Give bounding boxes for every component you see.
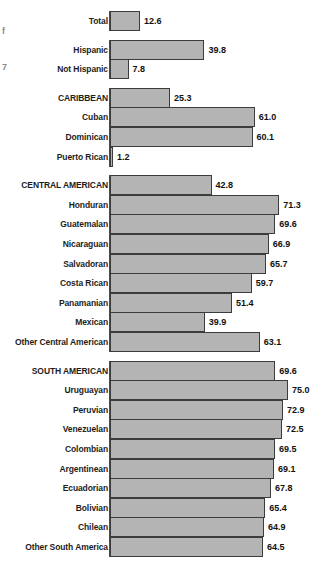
bar-row: Dominican60.1 (0, 127, 327, 147)
bar-row: Cuban61.0 (0, 107, 327, 127)
bar (110, 459, 274, 479)
bar-value-label: 69.1 (274, 459, 296, 479)
bar-value-label: 25.3 (170, 88, 192, 108)
bar-row: Peruvian72.9 (0, 400, 327, 420)
bar-value-label: 1.2 (113, 147, 130, 167)
bar-value-label: 39.9 (205, 312, 227, 332)
bar-row: Panamanian51.4 (0, 293, 327, 313)
bar-value-label: 12.6 (140, 11, 162, 31)
bar-row: Venezuelan72.5 (0, 419, 327, 439)
bar (110, 400, 283, 420)
bar-value-label: 63.1 (260, 332, 282, 352)
bar-row: Mexican39.9 (0, 312, 327, 332)
bar-row: SOUTH AMERICAN69.6 (0, 361, 327, 381)
bar (110, 380, 288, 400)
bar-value-label: 69.6 (275, 361, 297, 381)
bar-row-label: Colombian (65, 439, 108, 459)
bar-row: CENTRAL AMERICAN42.8 (0, 175, 327, 195)
bar-row-label: CENTRAL AMERICAN (21, 175, 108, 195)
bar-value-label: 65.7 (266, 254, 288, 274)
bar-value-label: 71.3 (279, 195, 301, 215)
bar-row: Costa Rican59.7 (0, 273, 327, 293)
bar-value-label: 75.0 (288, 380, 310, 400)
bar-row-label: Uruguayan (65, 380, 109, 400)
bar-row-label: Other Central American (15, 332, 108, 352)
bar (110, 498, 265, 518)
bar-row: Guatemalan69.6 (0, 214, 327, 234)
bar-row-label: Peruvian (73, 400, 108, 420)
bar-value-label: 39.8 (204, 40, 226, 60)
bar (110, 537, 263, 557)
bar (110, 127, 253, 147)
bar (110, 88, 170, 108)
bar-row: Salvadoran65.7 (0, 254, 327, 274)
bar-row-label: Not Hispanic (57, 59, 108, 79)
bar (110, 11, 140, 31)
bar (110, 59, 129, 79)
bar-value-label: 69.6 (275, 214, 297, 234)
bar-value-label: 72.5 (282, 419, 304, 439)
bar-row: CARIBBEAN25.3 (0, 88, 327, 108)
bar-row-label: Panamanian (59, 293, 108, 313)
bar-row-label: Venezuelan (63, 419, 108, 439)
bar (110, 107, 255, 127)
bar-row-label: Chilean (78, 517, 108, 537)
bar (110, 312, 205, 332)
bar-value-label: 72.9 (283, 400, 305, 420)
bar-row-label: Dominican (65, 127, 108, 147)
bar-row: Bolivian65.4 (0, 498, 327, 518)
bar (110, 234, 269, 254)
bar-row-label: Honduran (69, 195, 108, 215)
bar (110, 478, 271, 498)
bar-value-label: 64.5 (263, 537, 285, 557)
bar-row: Argentinean69.1 (0, 459, 327, 479)
bar (110, 273, 252, 293)
bar-row: Other South America64.5 (0, 537, 327, 557)
bar-row: Not Hispanic7.8 (0, 59, 327, 79)
bar-value-label: 65.4 (265, 498, 287, 518)
bar (110, 40, 204, 60)
bar-row-label: Hispanic (73, 40, 108, 60)
bar (110, 214, 275, 234)
bar-value-label: 66.9 (269, 234, 291, 254)
bar-value-label: 69.5 (275, 439, 297, 459)
bar-row-label: Total (89, 11, 108, 31)
bar-row: Honduran71.3 (0, 195, 327, 215)
bar-row-label: CARIBBEAN (58, 88, 108, 108)
bar-row: Other Central American63.1 (0, 332, 327, 352)
bar-value-label: 61.0 (255, 107, 277, 127)
bar (110, 439, 275, 459)
bar (110, 254, 266, 274)
bar-value-label: 51.4 (232, 293, 254, 313)
bar (110, 293, 232, 313)
bar-row-label: SOUTH AMERICAN (32, 361, 108, 381)
bar-value-label: 67.8 (271, 478, 293, 498)
bar (110, 419, 282, 439)
bar (110, 517, 264, 537)
bar-row-label: Cuban (82, 107, 108, 127)
bar-chart: f7 Total12.6Hispanic39.8Not Hispanic7.8C… (0, 0, 327, 565)
bar-value-label: 42.8 (212, 175, 234, 195)
bar-row-label: Guatemalan (60, 214, 108, 234)
bar-row-label: Bolivian (76, 498, 108, 518)
bar-value-label: 64.9 (264, 517, 286, 537)
bar-row: Uruguayan75.0 (0, 380, 327, 400)
bar-row-label: Salvadoran (63, 254, 108, 274)
bar-row: Total12.6 (0, 11, 327, 31)
bar (110, 361, 275, 381)
bar-row-label: Ecuadorian (63, 478, 108, 498)
bar-row-label: Puerto Rican (57, 147, 108, 167)
bar-value-label: 59.7 (252, 273, 274, 293)
bar-row-label: Costa Rican (60, 273, 108, 293)
bar-row-label: Argentinean (60, 459, 109, 479)
bar-row-label: Other South America (25, 537, 108, 557)
bar (110, 175, 212, 195)
bar-row: Puerto Rican1.2 (0, 147, 327, 167)
bar (110, 195, 279, 215)
bar-row: Colombian69.5 (0, 439, 327, 459)
bar-row-label: Nicaraguan (63, 234, 108, 254)
bar-row-label: Mexican (75, 312, 108, 332)
bar-row: Chilean64.9 (0, 517, 327, 537)
bar-row: Nicaraguan66.9 (0, 234, 327, 254)
bar-row: Ecuadorian67.8 (0, 478, 327, 498)
